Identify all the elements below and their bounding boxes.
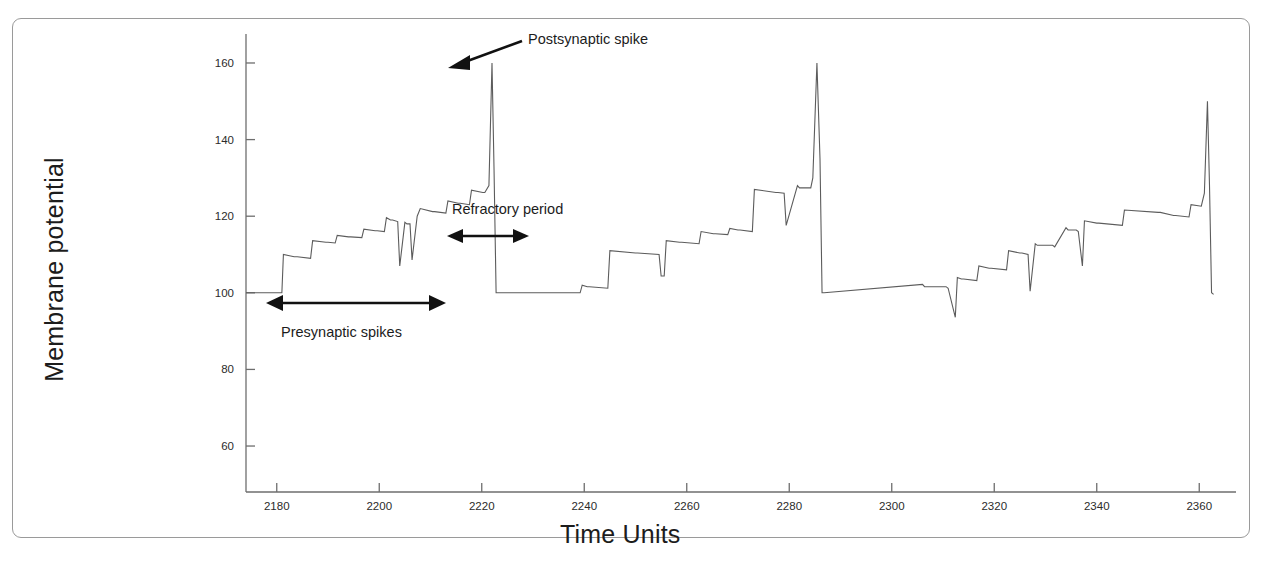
- x-tick-label: 2180: [264, 500, 290, 512]
- figure-root: 6080100120140160218022002220224022602280…: [0, 0, 1264, 566]
- y-tick-label: 160: [215, 57, 234, 69]
- y-tick-label: 140: [215, 134, 234, 146]
- plot-area: 6080100120140160218022002220224022602280…: [0, 0, 1264, 566]
- x-tick-label: 2260: [674, 500, 700, 512]
- x-tick-label: 2300: [879, 500, 905, 512]
- annotation-postsynaptic-spike: Postsynaptic spike: [528, 31, 648, 47]
- x-tick-label: 2280: [776, 500, 802, 512]
- y-tick-label: 120: [215, 210, 234, 222]
- x-tick-label: 2240: [571, 500, 597, 512]
- y-tick-label: 100: [215, 287, 234, 299]
- membrane-potential-trace: [246, 63, 1214, 317]
- y-tick-label: 60: [221, 440, 234, 452]
- x-tick-label: 2320: [981, 500, 1007, 512]
- x-tick-label: 2200: [366, 500, 392, 512]
- x-axis-title: Time Units: [560, 520, 681, 549]
- annotation-refractory-period: Refractory period: [452, 201, 563, 217]
- axes-group: 6080100120140160218022002220224022602280…: [215, 34, 1236, 512]
- y-axis-title: Membrane potential: [40, 120, 69, 420]
- refractory-double-arrow-icon: [447, 229, 529, 243]
- x-tick-label: 2340: [1084, 500, 1110, 512]
- presynaptic-double-arrow-icon: [266, 295, 446, 311]
- y-tick-label: 80: [221, 363, 234, 375]
- x-tick-label: 2360: [1186, 500, 1212, 512]
- postsynaptic-arrow-icon: [448, 41, 522, 70]
- membrane-potential-chart: 6080100120140160218022002220224022602280…: [0, 0, 1264, 566]
- x-tick-label: 2220: [469, 500, 495, 512]
- annotation-presynaptic-spikes: Presynaptic spikes: [281, 324, 402, 340]
